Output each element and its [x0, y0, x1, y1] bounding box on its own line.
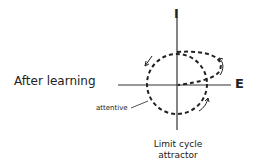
caption-line-2: attractor [146, 150, 210, 161]
axis-label-i: I [174, 6, 179, 21]
axis-label-e: E [235, 76, 244, 91]
attentive-label: attentive [96, 104, 128, 112]
condition-label: After learning [14, 74, 96, 88]
annotation-leader [131, 101, 148, 108]
caption: Limit cycle attractor [146, 139, 210, 161]
transient-loop [177, 52, 221, 85]
caption-line-1: Limit cycle [146, 139, 210, 150]
